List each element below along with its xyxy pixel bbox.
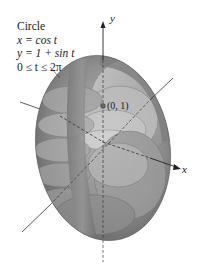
point-marker: [101, 104, 106, 109]
diagonal-axis-lower-segment: [22, 205, 50, 232]
x-axis-label: x: [182, 163, 187, 175]
surface-of-revolution-figure: Circle x = cos t y = 1 + sin t 0 ≤ t ≤ 2…: [0, 0, 200, 274]
y-axis-arrowhead: [101, 21, 106, 28]
diagonal-axis-upper-segment: [150, 78, 173, 100]
x-axis-arrowhead: [173, 164, 181, 170]
caption-parameter-range: 0 ≤ t ≤ 2π: [17, 61, 74, 75]
caption-title: Circle: [17, 20, 74, 34]
point-label: (0, 1): [107, 100, 129, 111]
y-axis-label: y: [110, 12, 115, 24]
figure-caption: Circle x = cos t y = 1 + sin t 0 ≤ t ≤ 2…: [17, 20, 74, 74]
caption-equation-y: y = 1 + sin t: [17, 47, 74, 61]
caption-equation-x: x = cos t: [17, 34, 74, 48]
